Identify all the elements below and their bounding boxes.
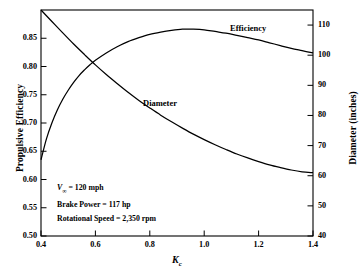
right-tick-label: 100 (318, 50, 344, 59)
x-tick-label: 0.4 (25, 240, 57, 249)
left-tick-label: 0.65 (8, 146, 37, 155)
chart-canvas (0, 0, 363, 275)
left-tick-label: 0.50 (8, 231, 37, 240)
x-tick-label: 1.0 (188, 240, 220, 249)
x-tick-label: 0.6 (79, 240, 111, 249)
x-axis-title: Kc (41, 254, 313, 268)
right-tick-label: 70 (318, 141, 344, 150)
chart-background (0, 0, 363, 275)
annotation-velocity-value: = 120 mph (66, 183, 103, 192)
x-tick-label: 1.4 (297, 240, 329, 249)
annotation-rotational-speed: Rotational Speed = 2,350 rpm (57, 212, 156, 226)
right-axis-title: Diameter (inches) (348, 68, 358, 188)
x-axis-title-sub: c (179, 260, 182, 268)
diameter-series-label: Diameter (143, 98, 177, 108)
left-tick-label: 0.80 (8, 62, 37, 71)
left-tick-label: 0.55 (8, 203, 37, 212)
right-tick-label: 50 (318, 201, 344, 210)
left-tick-label: 0.60 (8, 175, 37, 184)
x-axis-title-main: K (172, 254, 179, 265)
left-tick-label: 0.70 (8, 118, 37, 127)
chart-annotations: V∞ = 120 mph Brake Power = 117 hp Rotati… (57, 181, 156, 225)
annotation-velocity: V∞ = 120 mph (57, 181, 156, 198)
right-tick-label: 40 (318, 231, 344, 240)
right-tick-label: 110 (318, 20, 344, 29)
x-tick-label: 0.8 (134, 240, 166, 249)
right-tick-label: 60 (318, 171, 344, 180)
left-tick-label: 0.75 (8, 90, 37, 99)
right-tick-label: 80 (318, 110, 344, 119)
annotation-brake-power: Brake Power = 117 hp (57, 198, 156, 212)
x-tick-label: 1.2 (243, 240, 275, 249)
efficiency-series-label: Efficiency (230, 23, 266, 33)
left-axis-title: Propulsive Efficiency (15, 68, 25, 188)
left-tick-label: 0.85 (8, 33, 37, 42)
propulsive-efficiency-chart: Propulsive Efficiency Diameter (inches) … (0, 0, 363, 275)
right-tick-label: 90 (318, 80, 344, 89)
